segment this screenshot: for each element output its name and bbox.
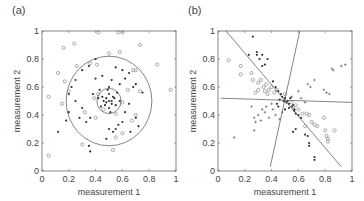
data-point (331, 68, 334, 71)
data-point (309, 86, 312, 89)
data-point (268, 117, 271, 120)
x-tick-label: 0.2 (239, 174, 252, 184)
data-point (325, 91, 328, 94)
data-point (265, 83, 268, 86)
data-point (169, 88, 172, 91)
data-point (251, 78, 254, 81)
data-point (111, 79, 113, 81)
data-point (105, 101, 107, 103)
data-point (250, 71, 253, 74)
data-point (258, 58, 260, 60)
data-point (47, 95, 50, 98)
data-point (78, 117, 80, 119)
x-tick-label: 0.8 (143, 174, 156, 184)
data-point (301, 112, 304, 115)
x-tick-label: 0.4 (89, 174, 102, 184)
data-point (114, 136, 117, 139)
data-point (284, 108, 286, 110)
data-point (124, 78, 126, 80)
data-point (156, 63, 159, 66)
data-point (264, 111, 267, 114)
data-point (304, 125, 307, 128)
data-point (63, 80, 66, 83)
data-point (313, 79, 316, 82)
y-tick-label: 0.4 (202, 110, 215, 120)
x-tick-label: 0.8 (319, 174, 332, 184)
data-point (75, 64, 78, 67)
data-point (89, 117, 91, 119)
x-tick-label: 0 (215, 174, 220, 184)
data-point (126, 88, 129, 91)
data-point (252, 36, 254, 38)
data-point (115, 66, 117, 68)
series-filled (248, 36, 316, 161)
data-point (95, 58, 97, 60)
x-tick-label: 0 (39, 174, 44, 184)
data-point (276, 103, 278, 105)
data-point (284, 97, 286, 99)
data-point (304, 101, 307, 104)
data-point (74, 79, 76, 81)
y-tick-label: 0.8 (202, 54, 215, 64)
data-point (280, 93, 282, 95)
y-tick-label: 1 (210, 26, 215, 36)
data-point (105, 138, 107, 140)
data-point (332, 69, 335, 72)
data-point (266, 58, 268, 60)
data-point (61, 102, 64, 105)
data-point (107, 89, 109, 91)
data-point (254, 121, 257, 124)
data-point (73, 42, 76, 45)
data-point (288, 103, 290, 105)
data-point (121, 121, 123, 123)
data-point (124, 111, 126, 113)
x-tick-label: 0.2 (63, 174, 76, 184)
data-point (108, 93, 110, 95)
data-point (304, 134, 306, 136)
figure: (a)00.20.40.60.8100.20.40.60.81measureme… (0, 0, 364, 201)
panel-label: (b) (188, 4, 201, 16)
data-point (300, 117, 302, 119)
data-point (256, 54, 258, 56)
data-point (74, 100, 76, 102)
data-point (105, 97, 107, 99)
y-axis-label: measurement 2 (188, 70, 198, 133)
data-point (100, 106, 102, 108)
data-point (65, 120, 67, 122)
scatter-panel-a: (a)00.20.40.60.8100.20.40.60.81measureme… (12, 4, 179, 197)
data-point (118, 50, 121, 53)
data-point (248, 54, 250, 56)
x-tick-label: 0.4 (265, 174, 278, 184)
data-point (259, 78, 262, 81)
data-point (253, 117, 256, 120)
series-filled (57, 58, 144, 153)
data-point (257, 88, 260, 91)
data-point (88, 65, 90, 67)
data-point (128, 72, 130, 74)
data-point (297, 90, 300, 93)
data-point (93, 97, 96, 100)
data-point (261, 54, 263, 56)
data-point (97, 97, 99, 99)
data-point (306, 83, 309, 86)
data-point (264, 64, 266, 66)
data-point (295, 128, 297, 130)
data-point (88, 145, 90, 147)
y-tick-label: 0 (210, 166, 215, 176)
data-point (290, 101, 293, 104)
data-point (322, 116, 325, 119)
data-point (109, 111, 111, 113)
data-point (340, 65, 343, 68)
data-point (47, 154, 50, 157)
data-point (263, 90, 266, 93)
x-tick-label: 0.6 (292, 174, 305, 184)
data-point (279, 99, 281, 101)
data-point (297, 114, 299, 116)
data-point (323, 89, 326, 92)
data-point (132, 86, 134, 88)
data-point (99, 89, 101, 91)
data-point (115, 128, 117, 130)
y-tick-label: 1 (34, 26, 39, 36)
y-tick-label: 0.8 (26, 54, 39, 64)
data-point (56, 71, 59, 74)
